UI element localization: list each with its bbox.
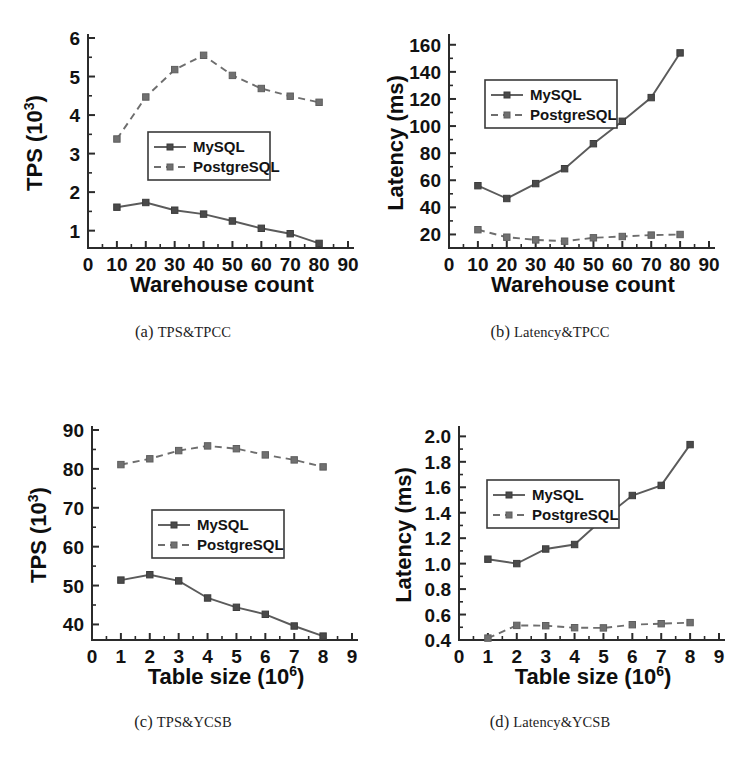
caption-d-tag: (d) (490, 712, 510, 731)
y-tick-label: 3 (69, 144, 80, 165)
y-tick-label: 70 (63, 498, 84, 519)
x-tick-label: 0 (87, 646, 98, 667)
legend-marker-postgresql (167, 164, 173, 170)
data-point-postgresql (316, 99, 322, 105)
data-point-postgresql (229, 72, 235, 78)
x-tick-label: 0 (83, 254, 94, 275)
legend-label-mysql: MySQL (530, 86, 582, 103)
data-point-mysql (504, 195, 510, 201)
x-axis-title-sup: 6 (656, 663, 664, 679)
data-point-postgresql (619, 233, 625, 239)
axis-frame (449, 34, 715, 248)
chart-b-plot: 010203040506070809020406080100120140160W… (367, 0, 733, 315)
data-point-mysql (262, 611, 268, 617)
caption-d-text: Latency&YCSB (513, 714, 610, 730)
chart-a-svg: 0102030405060708090123456Warehouse count… (0, 0, 366, 315)
x-tick-label: 8 (685, 646, 696, 667)
x-tick-label: 1 (483, 646, 494, 667)
data-point-postgresql (485, 635, 491, 641)
data-point-mysql (485, 556, 491, 562)
y-tick-label: 80 (420, 143, 441, 164)
data-point-mysql (687, 441, 693, 447)
data-point-mysql (229, 218, 235, 224)
caption-a-text: TPS&TPCC (158, 324, 231, 340)
data-point-postgresql (533, 237, 539, 243)
legend-marker-mysql (504, 92, 510, 98)
legend-marker-mysql (506, 492, 512, 498)
y-tick-label: 90 (63, 420, 84, 441)
y-tick-label: 160 (409, 35, 441, 56)
data-point-postgresql (677, 231, 683, 237)
data-point-mysql (561, 166, 567, 172)
y-axis-title-base: TPS (10 (22, 110, 47, 191)
y-tick-label: 1.2 (425, 528, 451, 549)
y-tick-label: 1 (69, 221, 80, 242)
caption-d: (d) Latency&YCSB (367, 712, 733, 732)
caption-c-tag: (c) (134, 712, 153, 731)
y-axis-title: Latency (ms) (391, 467, 416, 603)
x-tick-label: 1 (116, 646, 127, 667)
x-axis-title: Table size (106) (148, 663, 305, 689)
panel-a: 0102030405060708090123456Warehouse count… (0, 0, 366, 390)
x-axis-title: Warehouse count (130, 272, 314, 297)
y-axis-title: TPS (103) (25, 487, 51, 583)
data-point-mysql (475, 183, 481, 189)
y-axis-title-tail: ) (22, 95, 47, 102)
x-tick-label: 9 (714, 646, 725, 667)
legend-label-postgresql: PostgreSQL (193, 158, 280, 175)
y-tick-label: 80 (63, 459, 84, 480)
data-point-mysql (258, 225, 264, 231)
y-tick-label: 40 (420, 197, 441, 218)
data-point-mysql (200, 211, 206, 217)
y-axis-title-sup: 3 (25, 494, 41, 502)
y-tick-label: 2 (69, 182, 80, 203)
data-point-mysql (118, 577, 124, 583)
x-tick-label: 0 (444, 254, 455, 275)
y-tick-label: 120 (409, 89, 441, 110)
data-point-mysql (114, 204, 120, 210)
y-tick-label: 6 (69, 28, 80, 49)
x-axis-title-base: Table size (10 (148, 664, 289, 689)
data-point-postgresql (320, 464, 326, 470)
data-point-postgresql (658, 621, 664, 627)
x-tick-label: 8 (318, 646, 329, 667)
y-axis-title-tail: ) (26, 487, 51, 494)
legend-marker-postgresql (504, 112, 510, 118)
x-tick-label: 90 (337, 254, 358, 275)
y-axis-title-base: TPS (10 (26, 502, 51, 583)
caption-b-tag: (b) (491, 322, 511, 341)
data-point-postgresql (571, 625, 577, 631)
data-point-postgresql (262, 452, 268, 458)
legend-marker-postgresql (171, 542, 177, 548)
data-point-mysql (233, 604, 239, 610)
x-axis-title-base: Table size (10 (515, 664, 656, 689)
data-point-postgresql (114, 136, 120, 142)
legend-marker-mysql (167, 144, 173, 150)
y-tick-label: 60 (63, 537, 84, 558)
data-point-mysql (543, 546, 549, 552)
caption-c: (c) TPS&YCSB (0, 712, 366, 732)
data-point-mysql (287, 231, 293, 237)
x-tick-label: 90 (698, 254, 719, 275)
data-point-postgresql (143, 94, 149, 100)
data-point-postgresql (204, 443, 210, 449)
y-tick-label: 1.8 (425, 452, 451, 473)
y-tick-label: 1.6 (425, 477, 451, 498)
data-point-postgresql (200, 52, 206, 58)
data-point-postgresql (287, 93, 293, 99)
chart-c-svg: 0123456789405060708090Table size (106)TP… (0, 390, 366, 705)
data-point-postgresql (475, 227, 481, 233)
x-axis-title: Warehouse count (491, 272, 675, 297)
data-point-postgresql (504, 234, 510, 240)
data-point-postgresql (648, 232, 654, 238)
data-point-postgresql (258, 85, 264, 91)
data-point-postgresql (233, 446, 239, 452)
data-point-mysql (176, 578, 182, 584)
data-point-postgresql (118, 461, 124, 467)
legend-marker-mysql (171, 522, 177, 528)
y-tick-label: 140 (409, 62, 441, 83)
caption-b: (b) Latency&TPCC (367, 322, 733, 342)
chart-b-svg: 010203040506070809020406080100120140160W… (367, 0, 733, 315)
data-point-postgresql (172, 66, 178, 72)
data-point-mysql (629, 492, 635, 498)
